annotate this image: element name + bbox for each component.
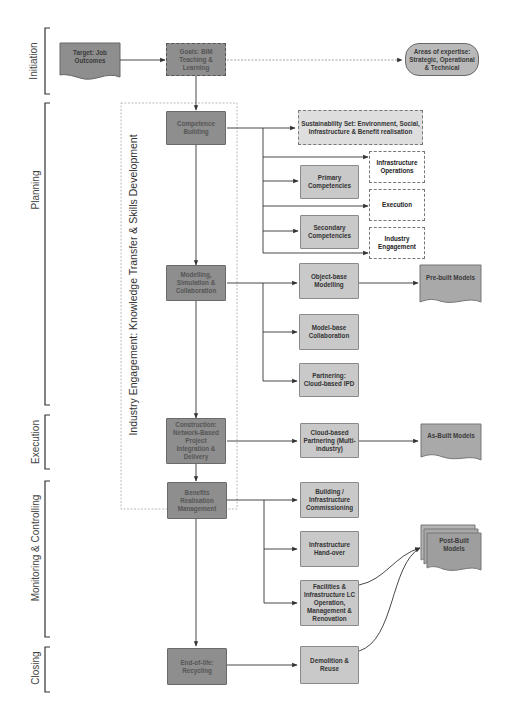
node-infrastructure-operations[interactable]: Infrastructure Operations (369, 151, 425, 183)
node-competence-building[interactable]: Competence Building (166, 111, 226, 145)
industry-engagement-label: Industry Engagement: Knowledge Transfer … (127, 134, 139, 435)
node-asbuilt-models[interactable]: As-Built Models (421, 424, 481, 460)
connectors-layer (0, 0, 505, 710)
node-demolition-reuse[interactable]: Demolition & Reuse (300, 646, 359, 684)
node-partnering-cloud-ipd[interactable]: Partnering: Cloud-based IPD (299, 363, 359, 397)
node-industry-engagement[interactable]: Industry Engagement (369, 227, 425, 259)
node-prebuilt-models[interactable]: Pre-built Models (420, 265, 481, 302)
node-postbuilt-models[interactable]: Post-Built Models (427, 533, 481, 569)
phase-label-initiation: Initiation (28, 42, 39, 79)
phase-label-planning: Planning (30, 171, 41, 210)
node-modelling-simulation[interactable]: Modelling, Simulation & Collaboration (166, 265, 226, 301)
node-cloud-based-partnering[interactable]: Cloud-based Partnering (Multi-industry) (300, 423, 359, 458)
node-goals-bim[interactable]: Goals: BIM Teaching & Learning (166, 43, 226, 76)
node-secondary-competencies[interactable]: Secondary Competencies (300, 215, 359, 249)
node-areas-of-expertise[interactable]: Areas of expertise: Strategic, Operation… (405, 43, 479, 76)
node-benefits-realisation[interactable]: Benefits Realisation Management (167, 482, 227, 519)
node-construction[interactable]: Construction: Network-Based Project Inte… (166, 418, 226, 464)
phase-label-monitoring-controlling: Monitoring & Controlling (30, 495, 41, 602)
node-sustainability-set[interactable]: Sustainability Set: Environment, Social,… (298, 110, 423, 145)
node-execution[interactable]: Execution (369, 189, 425, 221)
node-object-base-modelling[interactable]: Object-base Modelling (299, 263, 359, 299)
node-model-base-collaboration[interactable]: Model-base Collaboration (299, 314, 359, 350)
phase-brackets (45, 28, 50, 692)
node-primary-competencies[interactable]: Primary Competencies (300, 165, 359, 199)
phase-label-execution: Execution (30, 420, 41, 464)
node-end-of-life-recycling[interactable]: End-of-life: Recycling (167, 648, 227, 685)
node-infrastructure-handover[interactable]: Infrastructure Hand-over (300, 531, 359, 567)
phase-label-closing: Closing (30, 651, 41, 684)
process-diagram: Initiation Planning Execution Monitoring… (0, 0, 505, 710)
node-building-commissioning[interactable]: Building / Infrastructure Commissioning (300, 482, 359, 518)
node-target-job-outcomes[interactable]: Target: Job Outcomes (60, 43, 120, 77)
node-facilities-lc-operation[interactable]: Facilities & Infrastructure LC Operation… (300, 580, 359, 626)
